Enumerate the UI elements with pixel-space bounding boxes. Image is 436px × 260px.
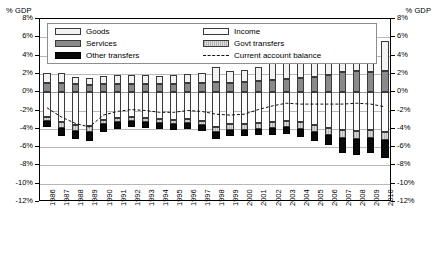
legend-item-goods: Goods bbox=[55, 27, 110, 36]
y-axis-tick bbox=[391, 146, 395, 147]
y-axis-tick bbox=[35, 18, 39, 19]
x-axis-label: 1990 bbox=[106, 189, 114, 206]
y-axis-tick-label: -12% bbox=[397, 197, 415, 205]
y-axis-tick-label: 0% bbox=[3, 87, 33, 95]
y-axis-tick bbox=[35, 164, 39, 165]
x-axis-label: 1997 bbox=[204, 189, 212, 206]
legend-item-other-transfers: Other transfers bbox=[55, 51, 139, 60]
y-axis-tick bbox=[35, 91, 39, 92]
x-axis-label: 2008 bbox=[359, 189, 367, 206]
current-account-stacked-bar-chart: % GDP % GDP Goods Services Other transfe… bbox=[0, 0, 436, 260]
y-axis-tick bbox=[391, 73, 395, 74]
y-axis-tick-label: 2% bbox=[397, 69, 408, 77]
x-axis-label: 2001 bbox=[260, 189, 268, 206]
y-axis-tick-label: -4% bbox=[3, 124, 33, 132]
legend-swatch-other-transfers bbox=[55, 52, 81, 59]
y-axis-tick bbox=[35, 183, 39, 184]
x-axis-label: 1999 bbox=[232, 189, 240, 206]
legend-swatch-income bbox=[203, 28, 229, 35]
x-axis-label: 1996 bbox=[190, 189, 198, 206]
y-axis-tick-label: 8% bbox=[397, 14, 408, 22]
y-axis-tick-label: 2% bbox=[3, 69, 33, 77]
x-axis-label: 2005 bbox=[317, 189, 325, 206]
x-axis-label: 2010 bbox=[387, 189, 395, 206]
y-axis-tick-label: -6% bbox=[397, 142, 410, 150]
y-axis-tick bbox=[391, 36, 395, 37]
x-axis-label: 1992 bbox=[134, 189, 142, 206]
y-axis-tick-label: 4% bbox=[397, 51, 408, 59]
legend-label-other-transfers: Other transfers bbox=[86, 51, 139, 60]
y-axis-unit-right: % GDP bbox=[405, 6, 431, 15]
y-axis-tick bbox=[391, 18, 395, 19]
y-axis-tick-label: 0% bbox=[397, 87, 408, 95]
y-axis-tick-label: -4% bbox=[397, 124, 410, 132]
legend-item-services: Services bbox=[55, 39, 117, 48]
y-axis-tick bbox=[391, 91, 395, 92]
x-axis-label: 2003 bbox=[289, 189, 297, 206]
y-axis-tick-label: -6% bbox=[3, 142, 33, 150]
y-axis-tick bbox=[391, 55, 395, 56]
legend-swatch-goods bbox=[55, 28, 81, 35]
x-axis-label: 1991 bbox=[120, 189, 128, 206]
y-axis-tick-label: -10% bbox=[3, 179, 33, 187]
x-axis-label: 1995 bbox=[176, 189, 184, 206]
x-axis-label: 2000 bbox=[246, 189, 254, 206]
legend-label-govt-transfers: Govt transfers bbox=[234, 39, 284, 48]
y-axis-tick-label: -2% bbox=[397, 106, 410, 114]
y-axis-tick-label: -2% bbox=[3, 106, 33, 114]
x-axis-label: 1993 bbox=[148, 189, 156, 206]
x-axis-label: 2004 bbox=[303, 189, 311, 206]
y-axis-tick bbox=[35, 201, 39, 202]
y-axis-tick bbox=[391, 183, 395, 184]
y-axis-tick bbox=[35, 36, 39, 37]
y-axis-tick-label: -12% bbox=[3, 197, 33, 205]
y-axis-tick bbox=[35, 146, 39, 147]
legend-label-services: Services bbox=[86, 39, 117, 48]
y-axis-tick bbox=[391, 110, 395, 111]
y-axis-tick-label: -10% bbox=[397, 179, 415, 187]
y-axis-tick bbox=[391, 164, 395, 165]
x-axis-label: 2006 bbox=[331, 189, 339, 206]
legend-swatch-current-account-balance bbox=[203, 55, 229, 56]
y-axis-tick-label: 4% bbox=[3, 51, 33, 59]
legend-label-goods: Goods bbox=[86, 27, 110, 36]
y-axis-tick-label: -8% bbox=[3, 160, 33, 168]
x-axis-label: 1988 bbox=[77, 189, 85, 206]
x-axis-label: 2007 bbox=[345, 189, 353, 206]
y-axis-tick bbox=[35, 128, 39, 129]
y-axis-tick-label: 6% bbox=[397, 32, 408, 40]
legend-swatch-govt-transfers bbox=[203, 40, 229, 47]
x-axis-label: 1989 bbox=[91, 189, 99, 206]
legend-item-current-account-balance: Current account balance bbox=[203, 51, 321, 60]
legend-item-income: Income bbox=[203, 27, 260, 36]
legend-label-income: Income bbox=[234, 27, 260, 36]
y-axis-tick-label: 6% bbox=[3, 32, 33, 40]
chart-legend: Goods Services Other transfers Income Go… bbox=[47, 23, 377, 64]
x-axis-label: 1994 bbox=[162, 189, 170, 206]
y-axis-tick bbox=[35, 73, 39, 74]
legend-label-current-account-balance: Current account balance bbox=[234, 51, 321, 60]
y-axis-tick-label: 8% bbox=[3, 14, 33, 22]
y-axis-tick bbox=[35, 55, 39, 56]
y-axis-tick bbox=[391, 128, 395, 129]
x-axis-label: 1986 bbox=[49, 189, 57, 206]
legend-item-govt-transfers: Govt transfers bbox=[203, 39, 284, 48]
x-axis-label: 1998 bbox=[218, 189, 226, 206]
x-axis-label: 1987 bbox=[63, 189, 71, 206]
x-axis-label: 2009 bbox=[373, 189, 381, 206]
y-axis-tick-label: -8% bbox=[397, 160, 410, 168]
y-axis-tick bbox=[35, 110, 39, 111]
legend-swatch-services bbox=[55, 40, 81, 47]
x-axis-label: 2002 bbox=[275, 189, 283, 206]
